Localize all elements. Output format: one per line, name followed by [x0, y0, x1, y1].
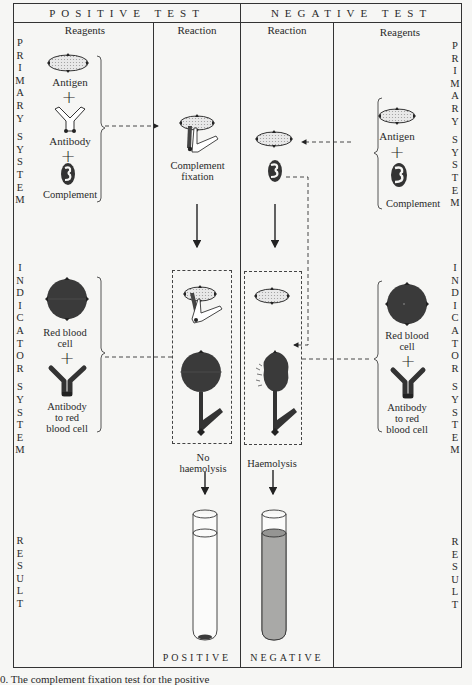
rbc-label-1: Red blood — [35, 327, 95, 338]
negative-reaction-header: Reaction — [241, 24, 333, 36]
complement-label: Complement — [377, 198, 449, 209]
positive-reaction-header: Reaction — [154, 24, 240, 36]
left-reagents-header: Reagents — [40, 24, 130, 36]
complement-fixation-icon — [176, 114, 226, 154]
anti-rbc-label-3: blood cell — [35, 423, 99, 434]
red-blood-cell-icon — [384, 281, 430, 327]
no-haemolysis-label-1: No — [163, 452, 243, 463]
positive-result-label: POSITIVE — [154, 652, 240, 663]
positive-test-tube-icon — [190, 508, 220, 643]
complement-fixation-label-2: fixation — [160, 171, 235, 182]
down-arrow-icon — [200, 472, 210, 500]
anti-rbc-antibody-icon — [390, 366, 426, 402]
down-arrow-icon — [192, 204, 202, 254]
down-arrow-icon — [270, 204, 280, 254]
positive-test-header: POSITIVE TEST — [14, 4, 240, 22]
dashed-connector-arrow — [298, 137, 353, 147]
dashed-connector — [105, 354, 175, 360]
right-column-divider — [333, 22, 334, 668]
anti-rbc-label-2: to red — [375, 413, 439, 424]
anti-rbc-label-3: blood cell — [375, 424, 439, 435]
right-reagents-header: Reagents — [350, 26, 450, 38]
complement-icon — [389, 162, 409, 190]
primary-system-label-right: PRIMARY SYSTEM — [449, 40, 461, 210]
result-label-right: RESULT — [449, 536, 461, 612]
down-arrow-icon — [268, 470, 278, 500]
complement-fixation-label-1: Complement — [160, 160, 235, 171]
negative-test-header: NEGATIVE TEST — [241, 4, 462, 22]
antigen-icon — [252, 285, 297, 307]
primary-system-label-left: PRIMARY SYSTEM — [14, 37, 26, 207]
complement-icon — [58, 162, 80, 188]
dashed-connector — [302, 356, 374, 362]
center-divider — [240, 3, 241, 668]
brace-icon — [373, 280, 383, 435]
antigen-icon — [253, 128, 298, 150]
left-column-divider — [153, 22, 154, 668]
result-label-left: RESULT — [14, 535, 26, 611]
figure-caption: 0. The complement fixation test for the … — [0, 673, 209, 685]
complement-icon — [266, 159, 284, 185]
anti-rbc-label-1: Antibody — [35, 401, 99, 412]
anti-rbc-label-2: to red — [35, 412, 99, 423]
negative-test-tube-icon — [259, 508, 289, 643]
negative-result-label: NEGATIVE — [241, 652, 333, 663]
indicator-system-label-left: INDICATOR SYSTEM — [14, 262, 26, 457]
antigen-icon — [45, 52, 95, 76]
intact-red-blood-cell-icon — [180, 350, 228, 440]
indicator-system-label-right: INDICATOR SYSTEM — [449, 262, 461, 457]
rbc-label-1: Red blood — [375, 330, 439, 341]
fixed-complement-antibody-icon — [180, 285, 230, 327]
anti-rbc-antibody-icon — [48, 364, 88, 400]
red-blood-cell-icon — [42, 275, 92, 323]
brace-icon — [373, 97, 383, 212]
dashed-connector-arrow — [105, 121, 165, 131]
anti-rbc-label-1: Antibody — [375, 402, 439, 413]
plus-sign: + — [387, 143, 407, 161]
haemolysis-label: Haemolysis — [240, 458, 304, 469]
plus-sign: + — [59, 88, 79, 106]
lysed-red-blood-cell-icon — [254, 350, 302, 440]
